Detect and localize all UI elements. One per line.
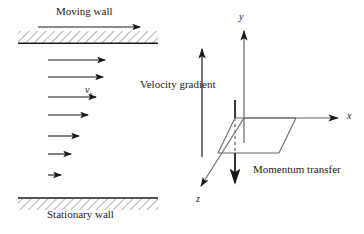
velocity-subscript: x [89, 90, 92, 98]
moving-wall-label: Moving wall [56, 5, 113, 17]
velocity-profile-arrows [48, 60, 105, 175]
z-axis [201, 118, 244, 186]
plane-right-edge [279, 118, 296, 153]
moving-wall-group [18, 31, 158, 43]
velocity-vx-label: vx [85, 84, 93, 99]
figure-canvas: Moving wall Stationary wall vx Velocity … [0, 0, 364, 234]
y-axis-label: y [239, 11, 243, 22]
velocity-gradient-label: Velocity gradient [140, 78, 202, 90]
x-axis-label: x [347, 110, 351, 121]
shear-plane [218, 118, 296, 153]
moving-wall-hatching [18, 31, 158, 43]
stationary-wall-label: Stationary wall [47, 208, 114, 220]
z-axis-label: z [196, 193, 200, 204]
momentum-transfer-label: Momentum transfer [253, 163, 323, 175]
figure-vector-layer [0, 0, 364, 234]
